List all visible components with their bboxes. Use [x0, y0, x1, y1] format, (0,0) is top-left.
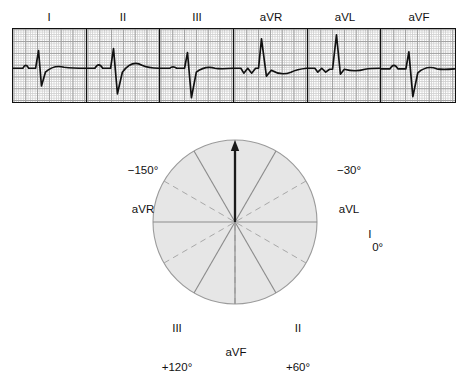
ecg-waveform-path-avr [234, 39, 307, 76]
hexaxial-label-avr-lead: aVR [112, 203, 174, 216]
ecg-lead-caption-row: I II III aVR aVL aVF [12, 8, 456, 26]
ecg-panel-ii [87, 29, 161, 102]
ecg-panel-avr [234, 29, 308, 102]
hexaxial-label-i-degrees: 0° [372, 241, 383, 254]
hexaxial-label-ii-degrees: +60° [265, 361, 331, 374]
ecg-waveform-path-iii [160, 53, 233, 98]
hexaxial-label-ii-lead: II [265, 322, 331, 335]
hexaxial-label-avr-degrees: −150° [112, 164, 174, 177]
hexaxial-label-iii-degrees: +120° [142, 361, 212, 374]
ecg-trace-i [13, 29, 86, 102]
ecg-trace-avr [234, 29, 307, 102]
ecg-waveform-path-avf [381, 52, 455, 97]
ecg-trace-ii [87, 29, 160, 102]
ecg-waveform-path-avl [308, 35, 381, 74]
ecg-panel-iii [160, 29, 234, 102]
ecg-panel-i [13, 29, 87, 102]
ecg-panel-avf [381, 29, 455, 102]
ecg-lead-caption-i: I [12, 8, 86, 26]
hexaxial-label-iii-lead: III [142, 322, 212, 335]
hexaxial-label-avl-degrees: −30° [318, 164, 380, 177]
ecg-waveform-path-ii [87, 49, 160, 94]
ecg-trace-avl [308, 29, 381, 102]
hexaxial-label-i: I 0° [349, 215, 409, 267]
ecg-lead-caption-avl: aVL [308, 8, 382, 26]
ecg-trace-iii [160, 29, 233, 102]
hexaxial-label-avf-lead: aVF [205, 346, 267, 359]
ecg-lead-caption-avf: aVF [382, 8, 456, 26]
hexaxial-label-iii: III +120° [142, 296, 212, 375]
ecg-waveform-path-i [13, 51, 86, 86]
ecg-lead-caption-ii: II [86, 8, 160, 26]
hexaxial-label-ii: II +60° [265, 296, 331, 375]
ecg-lead-caption-iii: III [160, 8, 234, 26]
ecg-trace-avf [381, 29, 455, 102]
ecg-lead-caption-avr: aVR [234, 8, 308, 26]
hexaxial-label-avf: aVF [205, 320, 267, 375]
hexaxial-label-i-lead: I [368, 228, 371, 241]
ecg-panel-avl [308, 29, 382, 102]
ecg-strip-row [12, 28, 456, 103]
hexaxial-diagram: −150° aVR −30° aVL I 0° III +120° II +60… [0, 110, 471, 347]
hexaxial-label-avr: −150° aVR [112, 138, 174, 242]
